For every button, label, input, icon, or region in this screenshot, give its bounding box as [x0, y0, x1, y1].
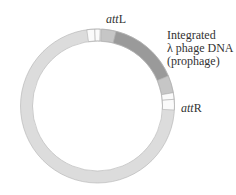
attL-right-segment	[95, 29, 100, 41]
attR-bottom-segment	[162, 99, 174, 110]
attl-label-roman: L	[119, 12, 126, 26]
prophage-label: Integrated λ phage DNA (prophage)	[167, 29, 233, 68]
ring-outline	[33, 41, 163, 171]
attL-left-segment	[87, 29, 95, 42]
prophage-segment	[113, 31, 168, 80]
attr-label-roman: R	[194, 101, 202, 115]
attr-label: attR	[181, 102, 202, 115]
attl-label-italic: att	[106, 12, 119, 26]
attr-label-italic: att	[181, 101, 194, 115]
attl-label: attL	[106, 13, 126, 26]
prophage-label-line-3: (prophage)	[167, 55, 233, 68]
